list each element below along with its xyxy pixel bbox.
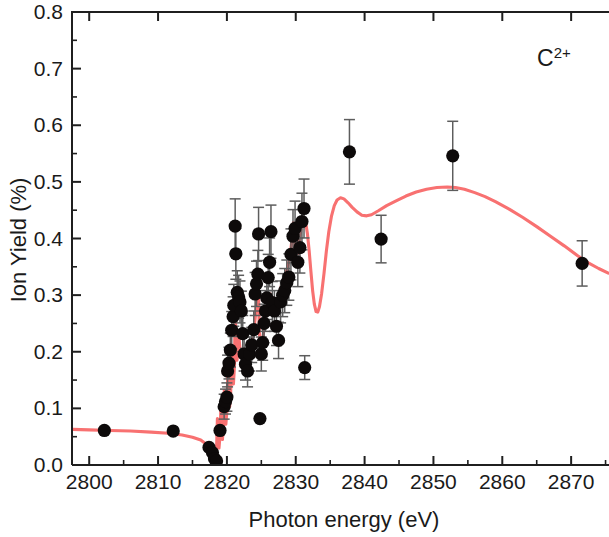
data-point [229,219,242,232]
x-tick-label: 2810 [135,470,182,493]
data-point [375,232,388,245]
annotation-superscript: 2+ [554,44,571,61]
y-tick-label: 0.5 [34,170,63,193]
data-point [297,202,310,215]
data-point [282,270,295,283]
data-point [293,241,306,254]
data-point [167,424,180,437]
data-point [245,338,258,351]
x-tick-label: 2840 [341,470,388,493]
annotation-base: C [537,45,554,71]
y-tick-label: 0.1 [34,396,63,419]
plot-background [0,0,609,537]
y-tick-label: 0.4 [34,227,64,250]
y-axis-title: Ion Yield (%) [6,178,31,303]
x-axis-title: Photon energy (eV) [249,507,440,532]
data-point [262,271,275,284]
data-point [222,356,235,369]
data-point [576,257,589,270]
chart-figure: 28002810282028302840285028602870 0.00.10… [0,0,609,537]
data-point [229,247,242,260]
data-point [224,343,237,356]
data-point [343,145,356,158]
data-point [270,320,283,333]
data-point [256,336,269,349]
data-point [213,424,226,437]
y-tick-label: 0.3 [34,283,63,306]
x-tick-label: 2800 [66,470,113,493]
data-point [264,225,277,238]
x-tick-label: 2820 [204,470,251,493]
data-point [295,215,308,228]
data-point [253,412,266,425]
data-point [291,256,304,269]
data-point [252,227,265,240]
x-tick-label: 2830 [272,470,319,493]
y-tick-label: 0.0 [34,453,63,476]
data-point [263,256,276,269]
data-point [446,149,459,162]
data-point [255,347,268,360]
data-point [235,304,248,317]
ion-yield-scatter-plot: 28002810282028302840285028602870 0.00.10… [0,0,609,537]
data-point [241,364,254,377]
x-tick-label: 2870 [548,470,595,493]
y-tick-label: 0.2 [34,340,63,363]
data-point [272,334,285,347]
x-tick-label: 2850 [410,470,457,493]
data-point [98,424,111,437]
data-point [298,361,311,374]
y-tick-label: 0.6 [34,113,63,136]
x-tick-label: 2860 [479,470,526,493]
data-point [257,317,270,330]
y-tick-label: 0.7 [34,57,63,80]
y-tick-label: 0.8 [34,0,63,23]
y-axis-tick-labels: 0.00.10.20.30.40.50.60.70.8 [34,0,64,476]
data-point [220,390,233,403]
